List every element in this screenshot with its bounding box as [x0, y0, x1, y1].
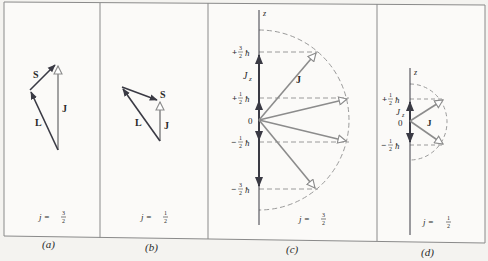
- svg-text:−: −: [381, 140, 386, 150]
- svg-text:2: 2: [239, 190, 242, 196]
- svg-text:1: 1: [239, 135, 242, 141]
- svg-text:3: 3: [322, 212, 325, 218]
- origin-label: 0: [398, 118, 403, 128]
- label-j: J: [296, 74, 301, 85]
- svg-text:2: 2: [164, 218, 167, 224]
- svg-text:3: 3: [239, 45, 242, 51]
- svg-text:j =: j =: [140, 212, 152, 222]
- svg-text:j =: j =: [298, 214, 310, 224]
- level-label-minus-1-2: − 1 2 ħ: [231, 135, 250, 149]
- label-l: L: [35, 117, 42, 128]
- svg-text:ħ: ħ: [245, 48, 250, 58]
- caption-c: (c): [286, 243, 299, 256]
- svg-text:1: 1: [389, 92, 392, 98]
- svg-text:2: 2: [322, 220, 325, 226]
- svg-text:3: 3: [62, 210, 65, 216]
- level-label-plus-1-2: + 1 2 ħ: [232, 91, 250, 105]
- caption-b: (b): [145, 241, 158, 254]
- label-j: J: [62, 103, 67, 114]
- svg-text:1: 1: [447, 215, 450, 221]
- svg-text:2: 2: [239, 143, 242, 149]
- svg-text:ħ: ħ: [395, 141, 400, 151]
- svg-text:j =: j =: [422, 217, 434, 227]
- svg-text:−: −: [231, 184, 236, 194]
- svg-text:2: 2: [239, 99, 242, 105]
- svg-text:2: 2: [447, 223, 450, 229]
- label-s: S: [160, 89, 166, 100]
- svg-text:J: J: [243, 70, 248, 81]
- level-label-minus-3-2: − 3 2 ħ: [231, 182, 250, 196]
- level-label-plus-3-2: + 3 2 ħ: [232, 45, 250, 59]
- svg-text:z: z: [248, 75, 252, 83]
- svg-text:2: 2: [239, 53, 242, 59]
- label-j: J: [164, 120, 169, 131]
- svg-text:1: 1: [164, 210, 167, 216]
- origin-label: 0: [248, 116, 253, 126]
- angular-momentum-figure: S L J j = 3 2 (a) S L J j = 1 2 (b): [0, 0, 488, 261]
- level-label-plus-1-2: + 1 2 ħ: [382, 92, 400, 106]
- svg-text:+: +: [382, 94, 387, 104]
- svg-text:ħ: ħ: [245, 138, 250, 148]
- label-j: J: [427, 118, 432, 128]
- caption-d: (d): [421, 246, 434, 259]
- svg-text:ħ: ħ: [245, 94, 250, 104]
- svg-text:2: 2: [62, 218, 65, 224]
- svg-text:ħ: ħ: [395, 95, 400, 105]
- label-l: L: [135, 117, 142, 128]
- svg-text:2: 2: [389, 146, 392, 152]
- svg-text:1: 1: [389, 138, 392, 144]
- svg-text:−: −: [231, 137, 236, 147]
- svg-text:1: 1: [239, 91, 242, 97]
- svg-text:ħ: ħ: [245, 185, 250, 195]
- caption-a: (a): [42, 238, 55, 251]
- level-label-minus-1-2: − 1 2 ħ: [381, 138, 400, 152]
- svg-text:2: 2: [389, 100, 392, 106]
- svg-text:+: +: [232, 93, 237, 103]
- label-s: S: [33, 69, 39, 80]
- svg-text:3: 3: [239, 182, 242, 188]
- svg-text:j =: j =: [38, 212, 50, 222]
- svg-text:+: +: [232, 47, 237, 57]
